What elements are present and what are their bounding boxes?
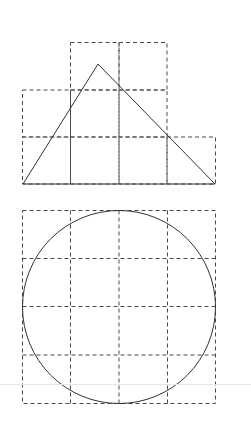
circle-grid [23,211,216,404]
triangle-figure [23,43,216,185]
grid-cell [71,43,120,91]
grid-cell [119,137,167,184]
circle-figure [23,211,216,404]
diagram-canvas [0,0,251,428]
grid-cell [119,90,167,137]
grid-cell [71,137,120,184]
grid-cell [119,43,167,91]
triangle-grid [23,43,216,185]
grid-cell [23,137,71,184]
grid-cell [23,90,71,137]
